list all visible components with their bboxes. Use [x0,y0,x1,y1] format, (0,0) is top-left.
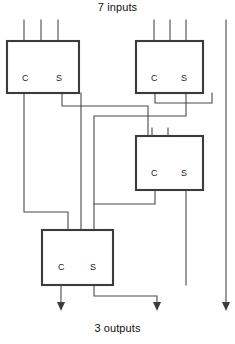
counter-3-s-label: S [181,168,187,178]
counter-4-s-label: S [90,262,96,272]
counter-block-3[interactable] [136,136,203,190]
output-count-label: 3 outputs [0,322,235,334]
output-arrow-group [57,302,230,311]
schematic-diagram: 7 inputs C S C S [0,0,235,344]
wire-c2-to-right-riser [155,93,212,103]
circuit-svg: C S C S C S C S [0,0,235,344]
wire-c3-to-b4 [94,190,155,204]
output-arrow-2 [153,302,161,311]
block3-input-stub-group [152,128,168,136]
counter-1-s-label: S [56,73,62,83]
counter-block-2[interactable] [136,41,203,93]
wire-s4-to-output-2 [94,285,157,303]
counter-3-c-label: C [151,168,158,178]
counter-block-1[interactable] [7,41,79,93]
counter-2-s-label: S [181,73,187,83]
wire-s1-to-b3 [62,93,148,136]
block-group: C S C S C S C S [7,41,203,285]
counter-block-4[interactable] [42,230,113,285]
counter-2-c-label: C [151,73,158,83]
output-arrow-3 [222,302,230,311]
counter-1-c-label: C [22,73,29,83]
output-arrow-1 [57,302,65,311]
counter-4-c-label: C [58,262,65,272]
output-wire-group [61,285,157,303]
wire-c1-to-b4 [24,93,68,230]
